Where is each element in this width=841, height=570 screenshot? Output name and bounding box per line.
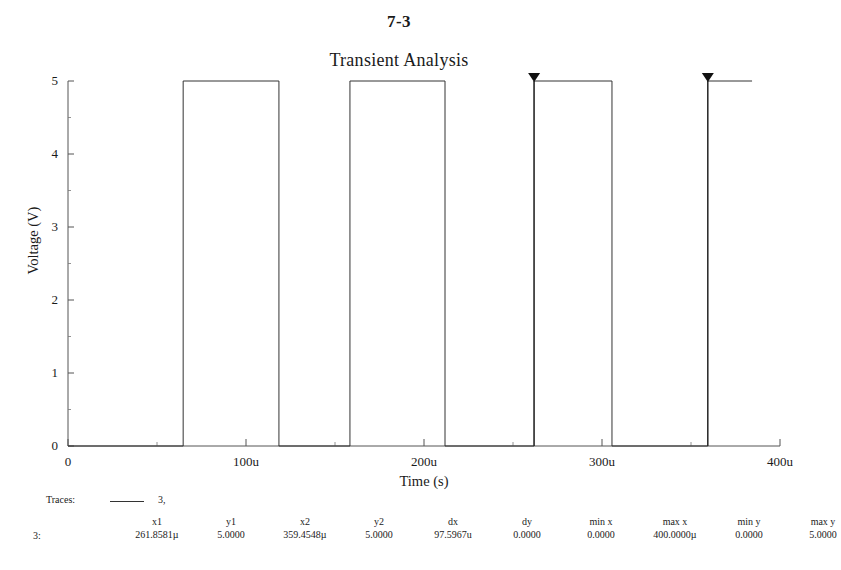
readout-header-x1: x1 [120, 516, 194, 528]
y-axis-label: Voltage (V) [25, 181, 42, 301]
readout-header-max-x: max x [638, 516, 712, 528]
trace-color-swatch [110, 501, 144, 502]
readout-column-x1: x1261.8581µ [120, 516, 194, 541]
readout-column-dx: dx97.5967u [416, 516, 490, 541]
y-tick-label-0: 0 [28, 438, 58, 454]
x-tick-label-300u: 300u [572, 454, 632, 470]
traces-legend: Traces: 3, [0, 494, 798, 512]
readout-header-y1: y1 [194, 516, 268, 528]
readout-column-max-y: max y5.0000 [786, 516, 841, 541]
readout-column-min-x: min x0.0000 [564, 516, 638, 541]
waveform-trace [68, 81, 752, 446]
traces-legend-label: Traces: [46, 494, 75, 505]
trace-line-3 [68, 81, 752, 446]
readout-value-max-y: 5.0000 [786, 528, 841, 541]
cursor-markers[interactable] [528, 73, 714, 446]
x-axis-label: Time (s) [68, 473, 780, 490]
x-tick-label-0: 0 [38, 454, 98, 470]
x-tick-label-400u: 400u [750, 454, 810, 470]
readout-header-max-y: max y [786, 516, 841, 528]
x-tick-label-200u: 200u [394, 454, 454, 470]
readout-value-x1: 261.8581µ [120, 528, 194, 541]
readout-column-x2: x2359.4548µ [268, 516, 342, 541]
readout-column-y1: y15.0000 [194, 516, 268, 541]
readout-value-min-y: 0.0000 [712, 528, 786, 541]
readout-value-max-x: 400.0000µ [638, 528, 712, 541]
readout-header-dx: dx [416, 516, 490, 528]
cursor-readout-table: 3: x1261.8581µy15.0000x2359.4548µy25.000… [0, 516, 798, 546]
readout-value-y2: 5.0000 [342, 528, 416, 541]
x-tick-label-100u: 100u [216, 454, 276, 470]
x-axis-ticks [68, 439, 780, 446]
readout-value-y1: 5.0000 [194, 528, 268, 541]
readout-column-min-y: min y0.0000 [712, 516, 786, 541]
y-tick-label-4: 4 [28, 146, 58, 162]
readout-column-max-x: max x400.0000µ [638, 516, 712, 541]
readout-value-dy: 0.0000 [490, 528, 564, 541]
y-tick-label-3: 3 [28, 219, 58, 235]
trace-name[interactable]: 3, [158, 494, 166, 505]
readout-column-dy: dy0.0000 [490, 516, 564, 541]
plot-area: Voltage (V) Time (s) 012345 0100u200u300… [0, 0, 798, 500]
axes [68, 81, 780, 446]
y-axis-ticks [68, 81, 74, 446]
readout-header-y2: y2 [342, 516, 416, 528]
readout-header-min-x: min x [564, 516, 638, 528]
readout-header-x2: x2 [268, 516, 342, 528]
readout-header-dy: dy [490, 516, 564, 528]
y-tick-label-1: 1 [28, 365, 58, 381]
readout-column-y2: y25.0000 [342, 516, 416, 541]
y-tick-label-5: 5 [28, 73, 58, 89]
readout-value-dx: 97.5967u [416, 528, 490, 541]
readout-header-min-y: min y [712, 516, 786, 528]
readout-value-min-x: 0.0000 [564, 528, 638, 541]
y-tick-label-2: 2 [28, 292, 58, 308]
readout-row-label: 3: [33, 530, 41, 541]
plot-svg [0, 0, 798, 500]
readout-value-x2: 359.4548µ [268, 528, 342, 541]
